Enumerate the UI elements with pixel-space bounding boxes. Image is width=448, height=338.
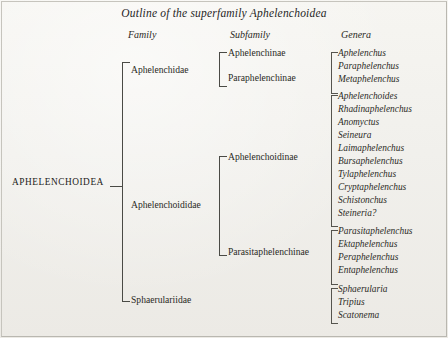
genus-tylaphelenchus: Tylaphelenchus [338, 169, 396, 179]
family-sphaerulariidae: Sphaerulariidae [131, 294, 191, 305]
genus-bursaphelenchus: Bursaphelenchus [338, 156, 403, 166]
genus-metaphelenchus: Metaphelenchus [338, 74, 399, 84]
genus-schistonchus: Schistonchus [338, 195, 387, 205]
superfamily-label: APHELENCHOIDEA [12, 177, 104, 187]
superfamily-connector [110, 186, 122, 187]
genera-bracket-aphelenchidae [331, 52, 338, 94]
subfamily-bracket-aphelenchoididae [219, 156, 227, 256]
genus-tripius: Tripius [338, 297, 365, 307]
subfamily-aphelenchinae: Aphelenchinae [228, 47, 286, 58]
family-bracket [122, 62, 130, 302]
genus-entaphelenchus: Entaphelenchus [338, 265, 398, 275]
genus-scatonema: Scatonema [338, 310, 379, 320]
column-header-family: Family [128, 29, 156, 40]
genus-cryptaphelenchus: Cryptaphelenchus [338, 182, 406, 192]
genus-parasitaphelenchus: Parasitaphelenchus [338, 226, 412, 236]
genus-sphaerularia: Sphaerularia [338, 284, 387, 294]
subfamily-paraphelenchinae: Paraphelenchinae [228, 72, 296, 83]
family-aphelenchoididae: Aphelenchoididae [131, 199, 201, 210]
column-header-genera: Genera [341, 29, 371, 40]
genus-anomyctus: Anomyctus [338, 117, 379, 127]
genus-peraphelenchus: Peraphelenchus [338, 252, 398, 262]
subfamily-aphelenchoidinae: Aphelenchoidinae [228, 151, 298, 162]
subfamily-bracket-aphelenchidae [219, 52, 227, 87]
figure-title: Outline of the superfamily Aphelenchoide… [0, 7, 448, 19]
genus-rhadinaphelenchus: Rhadinaphelenchus [338, 104, 412, 114]
column-header-subfamily: Subfamily [230, 29, 270, 40]
genera-bracket-parasitaphelenchinae [331, 230, 338, 285]
genus-paraphelenchus: Paraphelenchus [338, 61, 399, 71]
family-aphelenchidae: Aphelenchidae [131, 64, 189, 75]
subfamily-parasitaphelenchinae: Parasitaphelenchinae [228, 246, 309, 257]
genus-steineria: Steineria? [338, 208, 377, 218]
genus-laimaphelenchus: Laimaphelenchus [338, 143, 404, 153]
genera-bracket-aphelenchoidinae [331, 95, 338, 227]
genera-bracket-sphaerulariidae [331, 288, 338, 324]
outline-figure: Outline of the superfamily Aphelenchoide… [0, 0, 448, 338]
genus-seineura: Seineura [338, 130, 371, 140]
genus-aphelenchoides: Aphelenchoides [338, 91, 397, 101]
genus-ektaphelenchus: Ektaphelenchus [338, 239, 397, 249]
genus-aphelenchus: Aphelenchus [338, 48, 386, 58]
